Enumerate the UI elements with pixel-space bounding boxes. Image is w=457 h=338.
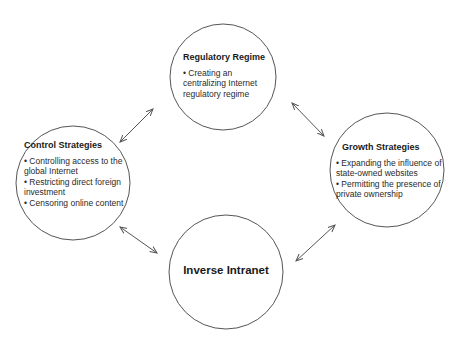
regulatory-regime-node: Regulatory Regime • Creating an centrali… — [183, 52, 273, 99]
control-bullet-3: • Censoring online content — [24, 198, 124, 209]
control-bullet-2: • Restricting direct foreign investment — [24, 177, 124, 198]
arrow-center-growth — [296, 225, 335, 261]
growth-bullet-2: • Permitting the presence of private own… — [336, 179, 444, 200]
inverse-intranet-label: Inverse Intranet — [176, 264, 276, 276]
control-strategies-node: Control Strategies • Controlling access … — [24, 140, 124, 208]
arrow-control-regulatory — [120, 109, 153, 142]
control-bullet-1: • Controlling access to the global Inter… — [24, 156, 124, 177]
growth-bullet-1: • Expanding the influence of state-owned… — [336, 158, 444, 179]
arrow-regulatory-growth — [292, 103, 324, 136]
control-strategies-title: Control Strategies — [24, 140, 124, 151]
growth-strategies-node: Growth Strategies • Expanding the influe… — [336, 142, 444, 200]
regulatory-regime-title: Regulatory Regime — [183, 52, 273, 63]
arrow-control-center — [120, 227, 157, 253]
growth-strategies-title: Growth Strategies — [336, 142, 444, 153]
regulatory-bullet: • Creating an centralizing Internet regu… — [183, 68, 265, 100]
